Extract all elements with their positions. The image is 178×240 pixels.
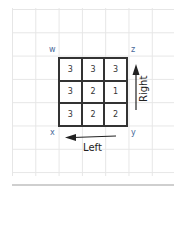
number-matrix: 3 3 3 3 2 1 3 2 2 (58, 57, 128, 127)
matrix-cell: 3 (59, 81, 82, 104)
right-label: Right (138, 76, 149, 102)
corner-label-z: z (131, 45, 135, 54)
matrix-cell: 2 (104, 103, 127, 126)
corner-label-y: y (131, 128, 136, 137)
matrix-cell: 2 (82, 81, 105, 104)
left-label: Left (83, 142, 102, 153)
matrix-cell: 3 (104, 58, 127, 81)
bottom-separator (12, 184, 174, 186)
matrix-cell: 1 (104, 81, 127, 104)
corner-label-x: x (50, 128, 55, 137)
matrix-cell: 2 (82, 103, 105, 126)
matrix-cell: 3 (59, 58, 82, 81)
matrix-cell: 3 (82, 58, 105, 81)
corner-label-w: w (49, 45, 56, 54)
matrix-cell: 3 (59, 103, 82, 126)
